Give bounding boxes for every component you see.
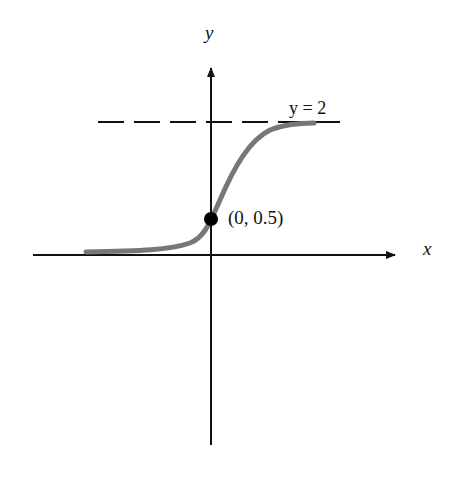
logistic-curve (86, 123, 314, 252)
y-axis-label: y (205, 22, 213, 44)
asymptote-label: y = 2 (289, 98, 326, 119)
intercept-point (204, 212, 218, 226)
graph-canvas (0, 0, 460, 482)
point-label: (0, 0.5) (228, 207, 283, 229)
x-axis-label: x (423, 238, 431, 260)
